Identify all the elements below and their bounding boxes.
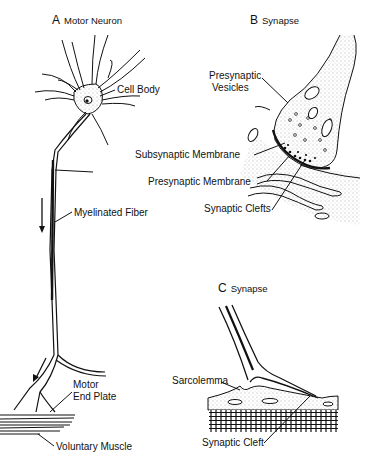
label-voluntary-muscle: Voluntary Muscle bbox=[56, 441, 132, 452]
label-subsynaptic-membrane: Subsynaptic Membrane bbox=[135, 149, 240, 160]
label-synaptic-clefts: Synaptic Clefts bbox=[204, 203, 271, 214]
panel-b-name: Synapse bbox=[262, 15, 299, 26]
label-presynaptic-vesicles-line1: Presynaptic bbox=[209, 70, 261, 81]
synapse-b-illustration bbox=[240, 35, 360, 225]
panel-b-letter: B bbox=[250, 13, 258, 27]
synapse-c-illustration bbox=[208, 305, 338, 443]
label-cell-body: Cell Body bbox=[117, 84, 160, 95]
label-synaptic-cleft: Synaptic Cleft bbox=[202, 437, 264, 448]
label-motor-end-plate-line1: Motor bbox=[73, 379, 99, 390]
label-presynaptic-membrane: Presynaptic Membrane bbox=[148, 176, 251, 187]
label-sarcolemma: Sarcolemma bbox=[172, 375, 228, 386]
panel-a-title: AMotor Neuron bbox=[52, 13, 122, 27]
diagram-canvas bbox=[0, 0, 366, 461]
panel-c-title: CSynapse bbox=[218, 281, 268, 295]
panel-c-letter: C bbox=[218, 281, 227, 295]
label-presynaptic-vesicles-line2: Vesicles bbox=[212, 82, 249, 93]
label-myelinated-fiber: Myelinated Fiber bbox=[74, 207, 148, 218]
panel-a-name: Motor Neuron bbox=[64, 15, 122, 26]
panel-a-letter: A bbox=[52, 13, 60, 27]
label-motor-end-plate-line2: End Plate bbox=[73, 391, 116, 402]
panel-b-title: BSynapse bbox=[250, 13, 299, 27]
panel-c-name: Synapse bbox=[231, 283, 268, 294]
